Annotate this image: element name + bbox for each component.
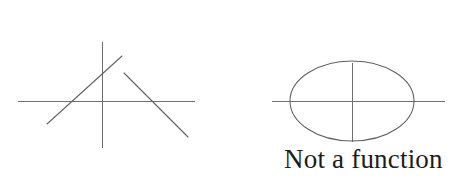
left-panel-group — [18, 42, 195, 148]
figure-canvas: Not a function — [0, 0, 456, 180]
figure-root: Not a function — [0, 0, 456, 180]
not-a-function-caption: Not a function — [284, 144, 443, 174]
ascending-line-segment — [47, 56, 122, 124]
descending-line-segment — [124, 73, 188, 137]
right-panel-group — [272, 61, 445, 142]
